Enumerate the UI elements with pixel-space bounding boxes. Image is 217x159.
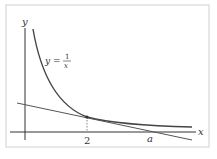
x-axis-label: x xyxy=(198,126,204,137)
tick-label-a: a xyxy=(147,133,153,144)
diagram-canvas: y x y = 1 x 2 a xyxy=(0,0,217,159)
curve-label-numerator: 1 xyxy=(65,53,69,61)
curve-label-denominator: x xyxy=(64,62,68,70)
tangent-point xyxy=(85,115,88,118)
y-axis-label: y xyxy=(21,16,28,27)
figure-frame xyxy=(6,5,209,147)
curve-label: y = xyxy=(44,56,61,66)
tick-label-2: 2 xyxy=(84,135,90,146)
